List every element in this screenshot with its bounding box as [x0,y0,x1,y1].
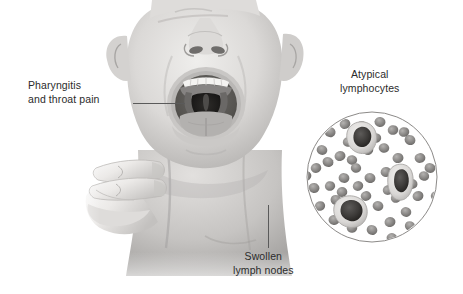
illustration-canvas: Pharyngitis and throat pain Atypical lym… [0,0,463,294]
label-pharyngitis: Pharyngitis and throat pain [28,79,100,106]
label-swollen-lymph-nodes-line1: Swollen [233,250,294,264]
label-atypical-lymphocytes: Atypical lymphocytes [340,68,399,95]
right-ear [279,34,304,81]
leader-line-pharyngitis [133,103,185,104]
atypical-lymphocyte-1 [347,122,377,154]
label-swollen-lymph-nodes: Swollen lymph nodes [233,250,294,277]
label-pharyngitis-line1: Pharyngitis [28,79,100,93]
label-pharyngitis-line2: and throat pain [28,93,100,107]
head [106,0,303,168]
medical-illustration-svg [0,0,463,294]
atypical-lymphocyte-2 [388,164,413,200]
open-mouth [167,67,245,146]
label-swollen-lymph-nodes-line2: lymph nodes [233,264,294,278]
label-atypical-lymphocytes-line1: Atypical [340,68,399,82]
label-atypical-lymphocytes-line2: lymphocytes [340,82,399,96]
left-ear [106,36,131,81]
blood-smear-circle [299,112,442,252]
leader-line-swollen-lymph-nodes [268,205,269,248]
